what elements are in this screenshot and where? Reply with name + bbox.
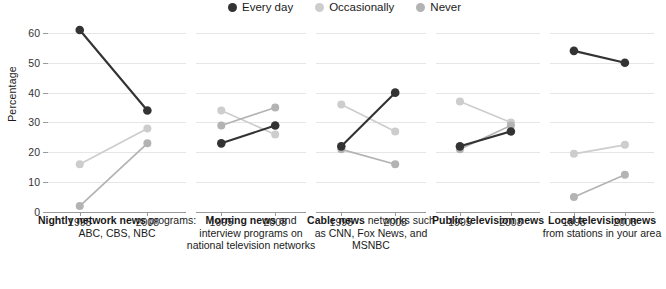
y-axis-tick-label: 50 (10, 57, 40, 69)
legend-label: Occasionally (329, 2, 394, 14)
legend-label: Never (430, 2, 461, 14)
series-line (460, 131, 511, 146)
axis-baseline (550, 212, 654, 213)
series-line (80, 143, 148, 206)
data-point-marker[interactable] (271, 121, 280, 130)
data-point-marker[interactable] (143, 139, 151, 147)
data-point-marker[interactable] (621, 58, 630, 67)
data-point-marker[interactable] (217, 121, 225, 129)
y-axis-tick-label: 60 (10, 27, 40, 39)
data-point-marker[interactable] (391, 160, 399, 168)
data-point-marker[interactable] (456, 142, 465, 151)
data-point-marker[interactable] (75, 26, 84, 35)
chart-panel: 19952008 (316, 24, 426, 212)
y-axis-tick-label: 10 (10, 176, 40, 188)
data-point-marker[interactable] (271, 104, 279, 112)
series-plot (316, 24, 426, 212)
series-line (460, 125, 511, 149)
data-point-marker[interactable] (76, 160, 84, 168)
data-point-marker[interactable] (391, 88, 400, 97)
data-point-marker[interactable] (217, 139, 226, 148)
y-axis-tick-label: 30 (10, 116, 40, 128)
legend-label: Every day (242, 2, 293, 14)
legend-marker-icon (416, 3, 425, 12)
panel-caption: Cable news networks such as CNN, Fox New… (304, 214, 438, 252)
series-plot (196, 24, 306, 212)
chart-panel: 19952008 (48, 24, 186, 212)
chart-panel: 19952008 (436, 24, 540, 212)
data-point-marker[interactable] (570, 193, 578, 201)
panel-caption: Local television news from stations in y… (538, 214, 666, 239)
legend-item[interactable]: Every day (228, 2, 293, 14)
legend-marker-icon (315, 3, 324, 12)
data-point-marker[interactable] (337, 101, 345, 109)
panel-title: Morning news (205, 214, 276, 226)
series-line (574, 175, 625, 197)
chart-legend: Every dayOccasionallyNever (228, 2, 461, 14)
series-line (460, 102, 511, 123)
panel-title: Local television news (548, 214, 656, 226)
data-point-marker[interactable] (391, 127, 399, 135)
series-line (221, 125, 275, 143)
y-axis-tick-label: 20 (10, 146, 40, 158)
panel-caption: Public television news (424, 214, 552, 227)
data-point-marker[interactable] (271, 130, 279, 138)
data-point-marker[interactable] (217, 107, 225, 115)
series-plot (436, 24, 540, 212)
series-plot (550, 24, 654, 212)
y-axis-tick-label: 40 (10, 87, 40, 99)
data-point-marker[interactable] (337, 142, 346, 151)
series-line (80, 128, 148, 164)
data-point-marker[interactable] (76, 202, 84, 210)
axis-baseline (436, 212, 540, 213)
data-point-marker[interactable] (621, 171, 629, 179)
panel-title: Cable news (307, 214, 365, 226)
legend-item[interactable]: Never (416, 2, 461, 14)
legend-item[interactable]: Occasionally (315, 2, 394, 14)
data-point-marker[interactable] (507, 127, 516, 136)
series-line (80, 30, 148, 111)
panel-caption: Nightly network news programs: ABC, CBS,… (36, 214, 198, 239)
axis-baseline (196, 212, 306, 213)
panel-subtitle: from stations in your area (543, 227, 661, 239)
data-point-marker[interactable] (570, 150, 578, 158)
chart-panel: 19952008 (196, 24, 306, 212)
data-point-marker[interactable] (143, 124, 151, 132)
series-plot (48, 24, 186, 212)
series-line (341, 149, 395, 164)
legend-marker-icon (228, 3, 237, 12)
axis-baseline (316, 212, 426, 213)
panel-title: Public television news (432, 214, 544, 226)
data-point-marker[interactable] (621, 141, 629, 149)
series-line (341, 105, 395, 132)
axis-baseline (48, 212, 186, 213)
data-point-marker[interactable] (456, 98, 464, 106)
series-line (574, 51, 625, 63)
chart-panel: 19952008 (550, 24, 654, 212)
panel-title: Nightly network news (38, 214, 146, 226)
panel-caption: Morning news and interview programs on n… (184, 214, 318, 252)
series-line (574, 145, 625, 154)
series-line (341, 93, 395, 147)
data-point-marker[interactable] (570, 47, 579, 56)
data-point-marker[interactable] (143, 106, 152, 115)
